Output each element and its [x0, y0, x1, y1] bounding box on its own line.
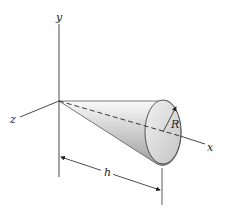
x-axis — [180, 136, 205, 144]
y-axis-label: y — [55, 11, 63, 24]
height-label: h — [104, 166, 111, 179]
x-axis-label: x — [207, 141, 214, 154]
z-axis — [20, 101, 59, 117]
radius-label: R — [170, 118, 179, 131]
z-axis-label: z — [9, 113, 16, 126]
cone-diagram: y z x R h — [0, 0, 226, 213]
